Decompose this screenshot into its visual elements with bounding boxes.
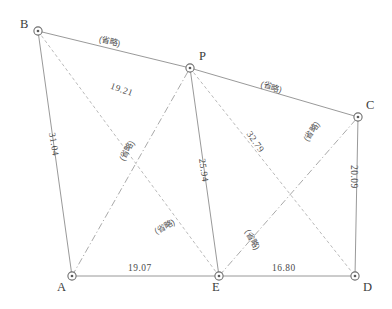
vertex-label-A: A: [57, 281, 66, 294]
distance-A-E: 19.07: [128, 264, 152, 273]
station-dot-icon: [357, 116, 360, 119]
distance-E-D: 16.80: [272, 264, 296, 273]
station-marker-D[interactable]: [351, 272, 359, 280]
vertex-label-D: D: [363, 281, 372, 294]
station-dot-icon: [354, 275, 357, 278]
edge-A-P: [72, 68, 190, 276]
station-dot-icon: [71, 275, 74, 278]
edges-layer: [38, 31, 358, 276]
survey-diagram: BPCAED 19.2131.0425.9432.7920.0919.0716.…: [0, 0, 392, 309]
station-marker-C[interactable]: [354, 113, 362, 121]
station-marker-A[interactable]: [68, 272, 76, 280]
distance-P-E: 25.94: [197, 158, 210, 183]
edge-E-C: [219, 117, 358, 276]
vertex-label-B: B: [20, 18, 29, 31]
stations-layer: [34, 27, 362, 280]
distance-C-D: 20.09: [349, 165, 358, 189]
edge-C-D: [355, 117, 358, 276]
station-marker-E[interactable]: [215, 272, 223, 280]
vertex-label-E: E: [212, 281, 220, 294]
station-dot-icon: [189, 67, 192, 70]
station-dot-icon: [37, 30, 40, 33]
vertex-label-C: C: [366, 99, 375, 112]
station-marker-B[interactable]: [34, 27, 42, 35]
station-marker-P[interactable]: [186, 64, 194, 72]
vertex-label-P: P: [199, 50, 206, 63]
station-dot-icon: [218, 275, 221, 278]
